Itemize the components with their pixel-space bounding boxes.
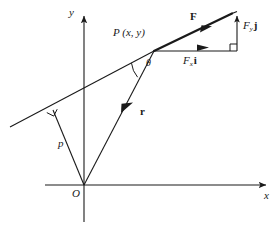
y-axis-label: y [69,7,74,18]
force-label: F [190,11,197,22]
position-vector-label: r [140,106,145,117]
fx-arrowhead [197,45,209,51]
perpendicular-distance-label: p [58,138,64,149]
force-arrowhead [200,25,212,32]
right-angle-marker-components [230,44,237,51]
point-p-label: P (x, y) [113,27,145,38]
fx-symbol: F [183,54,190,66]
origin-label: O [72,188,80,199]
fy-component-label: Fy j [243,20,257,33]
r-vector-glyph: r [140,105,145,117]
angle-theta-arc [132,63,138,77]
x-axis-label: x [264,190,269,201]
force-triangle-hypotenuse-cap [232,12,237,14]
fy-symbol: F [243,19,250,31]
fx-component-label: Fx i [183,55,197,68]
position-vector-r [84,51,154,185]
vector-force-diagram: y x O P (x, y) F r p θ Fx i Fy j [0,0,280,225]
j-unit-vector-glyph: j [254,19,258,31]
i-unit-vector-glyph: i [194,54,197,66]
angle-theta-label: θ [146,58,151,68]
line-of-action [10,51,154,127]
